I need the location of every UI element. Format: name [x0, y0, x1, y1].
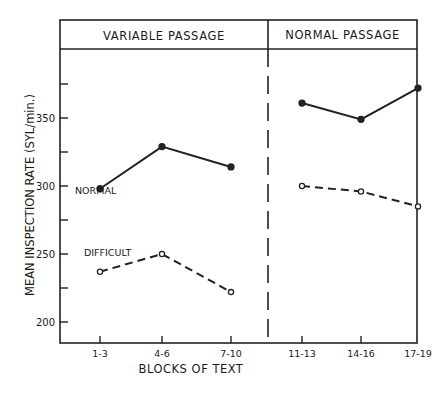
x-tick-label: 17-19 [404, 348, 432, 359]
series-line-normal [302, 88, 418, 119]
data-point-difficult [228, 289, 233, 294]
data-point-normal [415, 85, 421, 91]
x-tick-label: 11-13 [288, 348, 316, 359]
data-point-difficult [299, 183, 304, 188]
series-label-difficult: DIFFICULT [84, 247, 131, 258]
y-tick-label: 200 [36, 317, 55, 328]
panel-headers: VARIABLE PASSAGENORMAL PASSAGE [103, 28, 400, 43]
x-tick-label: 4-6 [154, 348, 170, 359]
x-tick-label: 7-10 [220, 348, 242, 359]
y-tick-label: 300 [36, 181, 55, 192]
series-label-normal: NORMAL [75, 185, 117, 196]
series-line-normal [100, 147, 231, 189]
data-point-difficult [415, 204, 420, 209]
x-axis-label: BLOCKS OF TEXT [139, 362, 244, 376]
data-point-difficult [97, 269, 102, 274]
series-line-difficult [100, 254, 231, 292]
plot-border [60, 20, 417, 343]
y-axis: 200250300350 [36, 84, 68, 328]
x-tick-label: 1-3 [92, 348, 108, 359]
data-point-normal [299, 100, 305, 106]
y-axis-label: MEAN INSPECTION RATE (SYL/min.) [23, 94, 37, 296]
y-tick-label: 250 [36, 249, 55, 260]
x-tick-label: 14-16 [347, 348, 375, 359]
data-series [97, 85, 421, 295]
data-point-normal [358, 116, 364, 122]
panel-header-variable: VARIABLE PASSAGE [103, 29, 225, 43]
data-point-difficult [159, 251, 164, 256]
y-tick-label: 350 [36, 113, 55, 124]
plot-frame [60, 20, 417, 343]
data-point-normal [159, 144, 165, 150]
line-chart: VARIABLE PASSAGENORMAL PASSAGE 200250300… [0, 0, 446, 393]
data-point-normal [228, 164, 234, 170]
panel-header-normal: NORMAL PASSAGE [285, 28, 400, 42]
data-point-difficult [358, 189, 363, 194]
x-axis: 1-34-67-1011-1314-1617-19 [92, 336, 432, 359]
